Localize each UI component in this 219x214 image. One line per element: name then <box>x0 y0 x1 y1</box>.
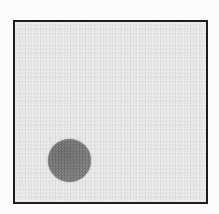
circle-edge-softening <box>48 139 91 182</box>
filled-circle-shape <box>48 139 91 182</box>
figure-frame <box>13 20 208 204</box>
scan-page <box>0 0 219 214</box>
frame-vignette <box>15 22 206 202</box>
frame-inner-edge <box>15 22 206 202</box>
halftone-texture <box>15 22 206 202</box>
